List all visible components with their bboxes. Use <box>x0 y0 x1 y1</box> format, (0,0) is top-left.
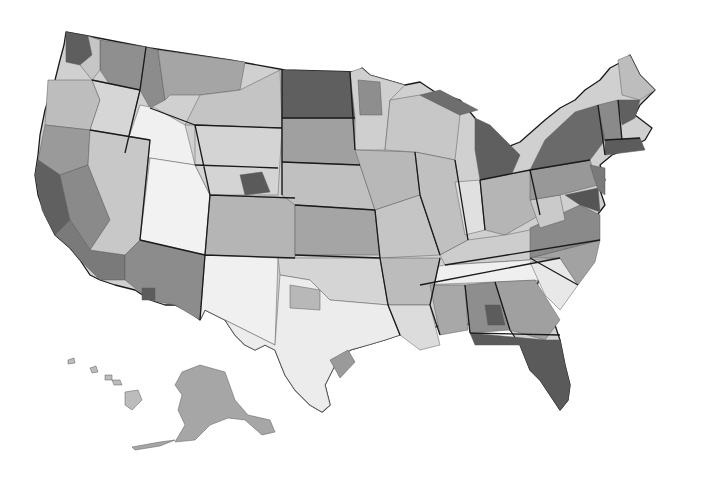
region-ne <box>282 162 375 210</box>
alaska <box>175 365 275 442</box>
alaska-aleutians <box>132 440 175 450</box>
inset-hawaii <box>68 358 142 410</box>
map-svg <box>0 0 718 480</box>
region-az-phoenix <box>142 288 155 300</box>
inset-alaska <box>132 365 275 450</box>
region-fl <box>470 333 570 410</box>
region-nd <box>282 70 355 118</box>
us-choropleth-map <box>0 0 718 480</box>
region-ma <box>605 138 645 155</box>
region-ks <box>295 205 380 255</box>
region-co <box>205 195 295 260</box>
hawaii-island-big <box>125 390 142 410</box>
region-mi-lower <box>475 118 520 180</box>
region-or-west <box>45 80 100 130</box>
shaded-regions <box>35 32 655 412</box>
region-sd <box>282 118 360 165</box>
region-mn-dark <box>358 80 382 115</box>
hawaii-islands-small <box>68 358 122 385</box>
region-me-north <box>618 55 655 100</box>
